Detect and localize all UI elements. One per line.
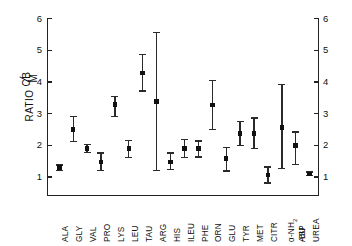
data-point [53,163,65,171]
y-tick-left-1 [48,176,52,177]
error-bar-cap-upper [292,131,299,132]
y-tick-label-right-3: 3 [323,109,335,119]
data-marker [238,131,243,136]
error-bar-cap-lower [223,170,230,171]
error-bar-cap-lower [209,129,216,130]
error-bar-cap-upper [195,140,202,141]
error-bar-cap-lower [125,157,132,158]
x-axis-label: LEU [132,225,141,242]
x-axis-label: PHE [202,225,211,242]
data-point [262,165,274,184]
data-marker [85,146,90,151]
data-point [137,53,149,92]
error-bar-cap-upper [97,152,104,153]
data-point [151,31,163,172]
y-axis-left-line [47,18,48,196]
y-tick-right-6 [314,18,318,19]
data-point [248,116,260,150]
data-marker [168,160,173,165]
y-tick-left-5 [48,50,52,51]
data-marker [307,172,312,177]
x-axis-label: CITR [271,222,280,242]
error-bar-cap-upper [237,121,244,122]
error-bar-cap-upper [84,144,91,145]
error-bar [295,131,296,165]
data-point [290,130,302,166]
data-point [192,139,204,158]
data-point [81,143,93,154]
y-tick-label-right-4: 4 [323,77,335,87]
data-marker [252,131,257,136]
y-tick-left-2 [48,145,52,146]
x-axis-label: LYS [118,227,127,242]
y-tick-label-left-5: 5 [30,45,42,55]
y-tick-label-right-6: 6 [323,14,335,24]
data-marker [224,156,229,161]
x-axis-label: ALA [62,226,71,242]
y-tick-label-right-2: 2 [323,140,335,150]
x-axis-label: ILEU [188,223,197,242]
data-marker [293,143,298,148]
data-marker [196,146,201,151]
data-point [67,115,79,142]
x-axis-label: ORN [215,223,224,242]
data-marker [266,173,271,178]
error-bar-cap-upper [209,80,216,81]
x-axis-label: TYR [243,225,252,242]
x-axis-line [47,195,319,196]
x-axis-label: TAU [146,226,155,242]
error-bar-cap-upper [181,139,188,140]
error-bar-cap-lower [251,148,258,149]
y-tick-label-left-6: 6 [30,14,42,24]
y-tick-right-2 [314,145,318,146]
y-tick-label-left-4: 4 [30,77,42,87]
data-point [178,138,190,159]
data-point [234,120,246,147]
data-marker [280,125,285,130]
data-point [304,170,316,176]
data-point [165,151,177,171]
error-bar-cap-lower [292,164,299,165]
error-bar-cap-lower [264,182,271,183]
error-bar-cap-upper [223,147,230,148]
error-bar-cap-upper [251,117,258,118]
error-bar-cap-lower [195,156,202,157]
error-bar-cap-upper [139,54,146,55]
y-axis-title: RATIO CBM [24,43,36,153]
data-point [95,151,107,171]
error-bar-cap-upper [70,116,77,117]
error-bar-cap-upper [153,32,160,33]
error-bar-cap-upper [278,84,285,85]
data-marker [154,99,159,104]
x-axis-label: HIS [174,228,183,242]
error-bar-cap-lower [237,145,244,146]
error-bar-cap-upper [111,96,118,97]
chart-container: RATIO CBM 123456 123456 ALAGLYVALPROLYSL… [0,0,352,246]
y-tick-label-right-5: 5 [323,45,335,55]
y-tick-right-4 [314,81,318,82]
error-bar-cap-upper [167,152,174,153]
y-tick-label-left-2: 2 [30,140,42,150]
x-axis-label: VAL [90,227,99,242]
data-marker [127,146,132,151]
data-point [220,146,232,173]
data-marker [113,102,118,107]
x-axis-label: UREA [313,218,322,242]
y-tick-right-5 [314,50,318,51]
y-tick-left-6 [48,18,52,19]
error-bar-cap-lower [153,170,160,171]
y-axis-right-line [318,18,319,196]
error-bar-cap-lower [139,90,146,91]
data-point [123,139,135,159]
data-marker [182,146,187,151]
error-bar-cap-lower [181,157,188,158]
x-axis-label: PRO [104,224,113,242]
x-axis-label: GLU [229,225,238,242]
y-tick-label-left-3: 3 [30,109,42,119]
data-point [206,79,218,131]
x-axis-label: ASP [299,225,308,242]
error-bar-cap-lower [56,170,63,171]
error-bar-cap-upper [125,140,132,141]
error-bar-cap-lower [111,116,118,117]
x-axis-label: GLY [76,226,85,242]
